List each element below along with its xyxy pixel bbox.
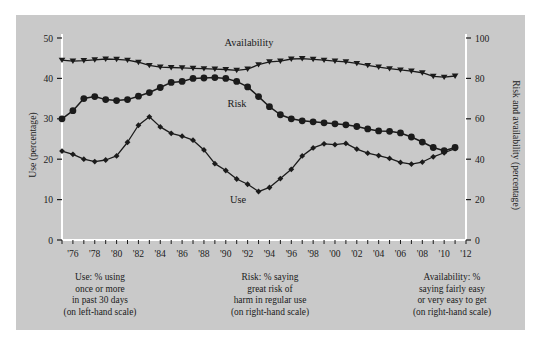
data-point bbox=[277, 111, 284, 118]
data-point bbox=[365, 150, 371, 156]
x-axis-tick-label: '82 bbox=[133, 248, 145, 259]
data-point bbox=[201, 75, 208, 82]
x-axis-tick-label: '94 bbox=[264, 248, 276, 259]
x-axis-tick-label: '12 bbox=[460, 248, 472, 259]
series-label-risk: Risk bbox=[227, 98, 247, 109]
data-point bbox=[70, 151, 76, 157]
data-point bbox=[299, 117, 306, 124]
data-point bbox=[343, 141, 349, 147]
data-point bbox=[59, 115, 66, 122]
data-point bbox=[387, 155, 393, 161]
data-point bbox=[398, 160, 404, 166]
data-point bbox=[124, 96, 131, 103]
x-axis-tick-label: '04 bbox=[373, 248, 385, 259]
data-point bbox=[135, 93, 142, 100]
data-point bbox=[179, 133, 185, 139]
data-point bbox=[190, 75, 197, 82]
caption-risk: Risk: % saying great risk of harm in reg… bbox=[200, 272, 340, 318]
data-point bbox=[113, 97, 120, 104]
x-axis-tick-label: '02 bbox=[351, 248, 363, 259]
data-point bbox=[211, 74, 218, 81]
data-point bbox=[342, 121, 349, 128]
x-axis-tick-label: '76 bbox=[67, 248, 79, 259]
data-point bbox=[332, 142, 338, 148]
data-point bbox=[80, 95, 87, 102]
right-axis-tick-label: 40 bbox=[475, 154, 485, 165]
right-axis-tick-label: 80 bbox=[475, 73, 485, 84]
left-axis-tick-label: 0 bbox=[48, 235, 53, 246]
data-point bbox=[222, 75, 229, 82]
data-point bbox=[364, 125, 371, 132]
data-point bbox=[397, 130, 404, 137]
data-point bbox=[441, 147, 448, 154]
left-axis-tick-label: 40 bbox=[43, 73, 53, 84]
right-axis-tick-label: 20 bbox=[475, 194, 485, 205]
x-axis-tick-label: '92 bbox=[242, 248, 254, 259]
data-point bbox=[59, 148, 65, 154]
data-point bbox=[375, 128, 382, 135]
data-point bbox=[157, 84, 164, 91]
data-point bbox=[321, 141, 327, 147]
series-risk bbox=[59, 74, 459, 154]
data-point bbox=[332, 120, 339, 127]
x-axis-tick-label: '08 bbox=[417, 248, 429, 259]
left-axis-tick-label: 20 bbox=[43, 154, 53, 165]
left-axis-tick-label: 50 bbox=[43, 33, 53, 44]
axes-layer: 01020304050020406080100'76'78'80'82'84'8… bbox=[43, 33, 489, 259]
right-axis-title: Risk and availability (percentage) bbox=[510, 80, 522, 210]
chart-figure: 01020304050020406080100'76'78'80'82'84'8… bbox=[0, 0, 550, 355]
data-point bbox=[409, 161, 415, 167]
data-point bbox=[376, 153, 382, 159]
data-point bbox=[386, 128, 393, 135]
data-point bbox=[408, 134, 415, 141]
x-axis-tick-label: '88 bbox=[198, 248, 210, 259]
data-point bbox=[179, 78, 186, 85]
data-point bbox=[354, 146, 360, 152]
caption-use: Use: % using once or more in past 30 day… bbox=[30, 272, 170, 318]
data-point bbox=[255, 93, 262, 100]
left-axis-tick-label: 30 bbox=[43, 113, 53, 124]
x-axis-tick-label: '86 bbox=[176, 248, 188, 259]
series-layer bbox=[59, 56, 459, 194]
left-axis-tick-label: 10 bbox=[43, 194, 53, 205]
data-point bbox=[168, 130, 174, 136]
data-point bbox=[266, 103, 273, 110]
right-axis-tick-label: 100 bbox=[475, 33, 490, 44]
data-point bbox=[70, 107, 77, 114]
x-axis-tick-label: '06 bbox=[395, 248, 407, 259]
data-point bbox=[353, 123, 360, 130]
data-point bbox=[103, 157, 109, 163]
data-point bbox=[168, 79, 175, 86]
right-axis-tick-label: 60 bbox=[475, 113, 485, 124]
series-availability bbox=[59, 56, 459, 80]
series-use bbox=[59, 114, 458, 195]
data-point bbox=[91, 93, 98, 100]
data-point bbox=[233, 78, 240, 85]
data-point bbox=[81, 156, 87, 162]
data-point bbox=[452, 144, 459, 151]
series-label-use: Use bbox=[230, 194, 247, 205]
left-axis-title: Use (percentage) bbox=[27, 112, 39, 177]
x-axis-tick-label: '78 bbox=[89, 248, 101, 259]
data-point bbox=[244, 83, 251, 90]
caption-availability: Availability: % saying fairly easy or ve… bbox=[382, 272, 522, 318]
data-point bbox=[102, 96, 109, 103]
x-axis-tick-label: '90 bbox=[220, 248, 232, 259]
data-point bbox=[430, 144, 437, 151]
x-axis-tick-label: '80 bbox=[111, 248, 123, 259]
data-point bbox=[430, 154, 436, 160]
data-point bbox=[92, 159, 98, 165]
data-point bbox=[321, 119, 328, 126]
data-point bbox=[310, 118, 317, 125]
x-axis-tick-label: '00 bbox=[329, 248, 341, 259]
x-axis-tick-label: '10 bbox=[438, 248, 450, 259]
right-axis-tick-label: 0 bbox=[475, 235, 480, 246]
x-axis-tick-label: '98 bbox=[307, 248, 319, 259]
x-axis-tick-label: '84 bbox=[155, 248, 167, 259]
data-point bbox=[419, 159, 425, 165]
series-label-availability: Availability bbox=[225, 37, 275, 48]
data-point bbox=[146, 89, 153, 96]
data-point bbox=[288, 115, 295, 122]
x-axis-tick-label: '96 bbox=[286, 248, 298, 259]
data-point bbox=[419, 139, 426, 146]
